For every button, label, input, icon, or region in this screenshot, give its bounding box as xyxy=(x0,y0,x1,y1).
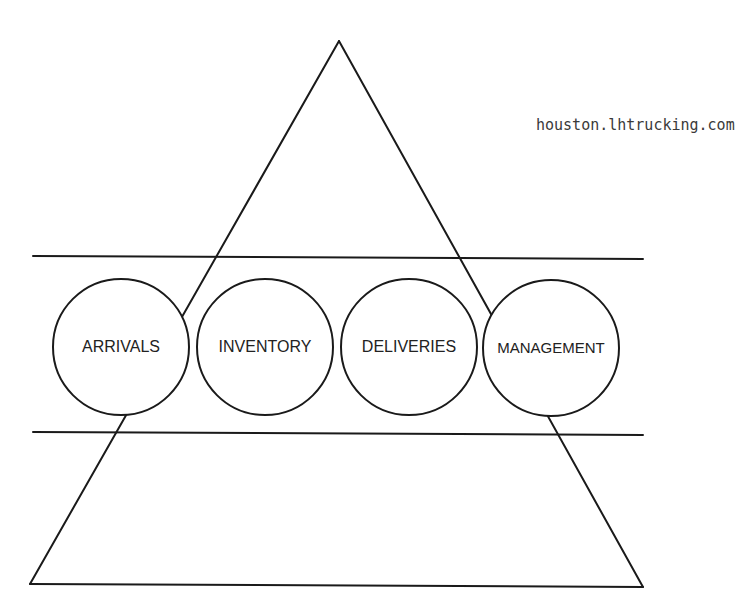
node-label-arrivals: ARRIVALS xyxy=(53,337,189,357)
node-label-deliveries: DELIVERIES xyxy=(341,337,477,357)
node-label-inventory: INVENTORY xyxy=(197,337,333,357)
site-url: houston.lhtrucking.com xyxy=(536,116,735,134)
band-bottom-line xyxy=(33,432,643,435)
node-label-management: MANAGEMENT xyxy=(483,338,619,358)
triangle-base xyxy=(30,584,643,587)
band-top-line xyxy=(33,256,643,259)
